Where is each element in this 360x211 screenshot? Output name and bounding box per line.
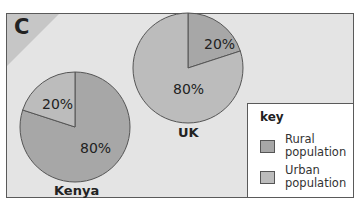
legend-item-urban: Urban population: [260, 164, 345, 190]
uk-name: UK: [178, 125, 200, 140]
kenya-urban-label: 20%: [42, 96, 73, 112]
legend-label-urban: Urban population: [285, 164, 345, 190]
pie-kenya: 20% 80% Kenya: [20, 72, 130, 198]
legend: key Rural population Urban population: [247, 103, 354, 198]
uk-rural-label: 20%: [204, 36, 235, 52]
urban-swatch: [260, 171, 275, 184]
pie-uk: 20% 80% UK: [133, 13, 243, 140]
rural-swatch: [260, 140, 275, 153]
legend-label-rural: Rural population: [285, 133, 345, 159]
legend-title: key: [260, 110, 284, 124]
kenya-name: Kenya: [54, 183, 99, 198]
uk-urban-label: 80%: [173, 81, 204, 97]
legend-item-rural: Rural population: [260, 133, 345, 159]
kenya-rural-label: 80%: [80, 140, 111, 156]
